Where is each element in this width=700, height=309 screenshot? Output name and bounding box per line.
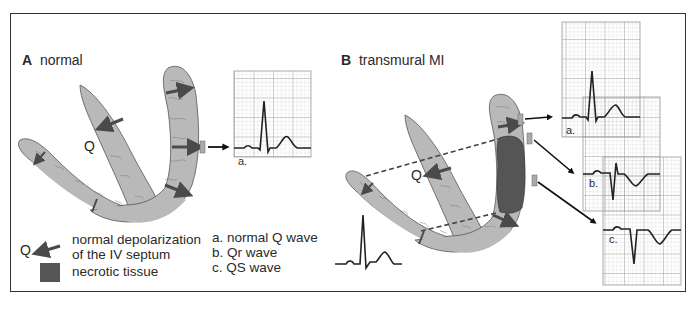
- legend-wave-b: b. Qr wave: [212, 245, 318, 260]
- legend-wave-list: a. normal Q wave b. Qr wave c. QS wave: [212, 230, 318, 275]
- legend-necrotic-swatch: [40, 263, 60, 282]
- electrode-b-c: [532, 175, 537, 186]
- legend-wave-a: a. normal Q wave: [212, 230, 318, 245]
- electrode-b-a: [518, 114, 523, 125]
- ecg-a-normal-q-wave: [562, 22, 640, 137]
- electrode-a: [200, 141, 205, 153]
- heart-normal: [18, 66, 226, 222]
- legend-arrow-description: normal depolarization of the IV septum: [72, 232, 201, 262]
- ecg-label-a-normal: a.: [238, 155, 247, 167]
- reference-ecg: [335, 215, 402, 268]
- ecg-label-b-mi: b.: [589, 177, 598, 189]
- legend-arrow-line1: normal depolarization: [72, 232, 201, 247]
- legend-arrow-line2: of the IV septum: [72, 247, 201, 262]
- q-label-b: Q: [411, 167, 422, 183]
- ecg-normal: [234, 71, 311, 157]
- ecg-label-c-mi: c.: [609, 233, 618, 245]
- legend-wave-c: c. QS wave: [212, 260, 318, 275]
- electrode-b-b: [527, 133, 532, 144]
- legend-necrotic-text: necrotic tissue: [72, 264, 158, 279]
- heart-mi: [346, 94, 594, 252]
- legend-q-symbol: Q: [20, 242, 31, 258]
- q-label-a: Q: [84, 138, 95, 154]
- legend-arrow-icon: [40, 246, 60, 252]
- necrotic-region: [497, 136, 525, 213]
- diagram-canvas: a.: [0, 0, 700, 309]
- ecg-label-a-mi: a.: [566, 124, 575, 136]
